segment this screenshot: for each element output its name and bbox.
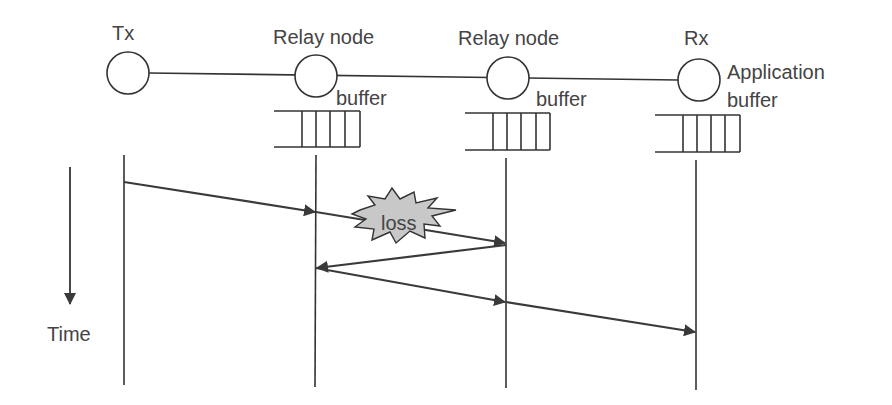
relay2-buffer xyxy=(465,113,550,150)
loss-burst-icon: loss xyxy=(352,188,456,243)
rx-buffer-label: buffer xyxy=(727,89,778,111)
msg-tx-relay1 xyxy=(124,182,315,212)
relay2-node xyxy=(487,57,529,99)
relay1-timeline xyxy=(315,155,316,387)
link-line xyxy=(149,73,678,80)
loss-label: loss xyxy=(381,212,417,234)
time-label: Time xyxy=(47,323,91,345)
tx-label: Tx xyxy=(112,22,134,44)
tx-node xyxy=(107,52,149,94)
rx-label: Rx xyxy=(684,27,708,49)
relay2-label: Relay node xyxy=(458,27,559,49)
relay2-buffer-label: buffer xyxy=(536,88,587,110)
msg-relay1-relay2-retx xyxy=(316,268,505,302)
relay1-node xyxy=(295,55,337,97)
relay-timing-diagram: Tx Relay node buffer Relay node buffer R… xyxy=(0,0,892,405)
relay1-label: Relay node xyxy=(273,26,374,48)
rx-node xyxy=(678,59,720,101)
msg-relay2-rx xyxy=(506,302,695,332)
relay1-buffer xyxy=(274,111,360,147)
rx-buffer xyxy=(655,115,740,152)
rx-app-label: Application xyxy=(727,61,825,83)
relay1-buffer-label: buffer xyxy=(336,87,387,109)
msg-relay2-relay1-feedback xyxy=(317,245,506,268)
